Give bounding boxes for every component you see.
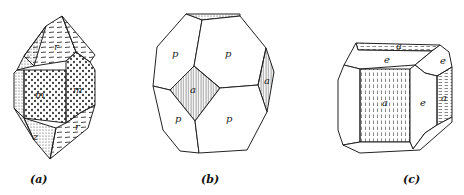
label-p-lower-left: p [175,113,182,124]
label-a-top: a [396,40,402,51]
face-m-left [24,70,66,123]
label-e-right: e [420,97,426,108]
figure-c: a e e a e a (c) [338,40,452,186]
crystal-diagram: r m m r z (a) p p a a p p (b) [0,0,464,195]
label-m-right: m [73,84,82,95]
label-e-top-right: e [440,55,446,66]
label-a-center: a [190,84,196,95]
label-a-front: a [382,97,388,108]
label-m-left: m [35,89,44,100]
caption-a: (a) [30,173,48,186]
label-a-right: a [441,92,447,103]
figure-a: r m m r z (a) [14,16,95,186]
face-left [338,65,360,145]
label-a-right: a [264,75,270,86]
figure-b: p p a a p p (b) [153,14,274,186]
label-e-top: e [384,54,390,65]
label-z-bottom: z [32,131,39,142]
label-p-lower-right: p [226,113,233,124]
caption-c: (c) [403,173,420,186]
label-p-upper-left: p [172,48,179,59]
label-p-upper-right: p [225,48,232,59]
face-z-bottom [24,118,56,159]
caption-b: (b) [201,173,219,186]
